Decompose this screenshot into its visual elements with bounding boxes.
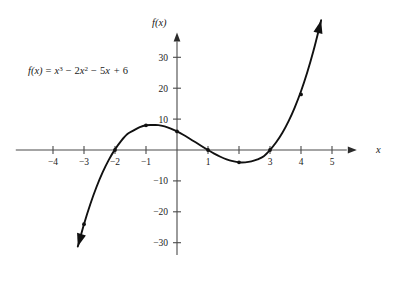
equation-equals: = <box>46 65 52 76</box>
equation-constant: 6 <box>123 65 128 76</box>
x-tick-label: −3 <box>79 157 89 167</box>
x-tick-label: −2 <box>110 157 120 167</box>
y-axis-arrow-icon <box>174 33 181 42</box>
function-equation-label: f(x)=x3−2x2−5x+6 <box>28 65 128 78</box>
y-axis-label: f(x) <box>152 17 167 29</box>
curve-point-marker <box>299 92 303 96</box>
y-tick-label: −10 <box>153 176 168 186</box>
curve-point-marker <box>206 148 210 152</box>
x-tick-label: 1 <box>206 157 211 167</box>
y-tick-label: 20 <box>159 84 169 94</box>
equation-minus-2: − <box>91 65 97 76</box>
curve-start-arrow-icon <box>77 233 86 247</box>
x-tick-label: 3 <box>268 157 273 167</box>
curve-end-arrow-icon <box>314 20 323 34</box>
x-axis-label: x <box>375 144 381 155</box>
x-tick-label: 5 <box>330 157 335 167</box>
function-curve <box>78 20 321 246</box>
equation-plus: + <box>114 65 120 76</box>
curve-point-marker <box>144 123 148 127</box>
equation-term3-base: x <box>104 65 110 76</box>
curve-point-marker <box>175 130 179 134</box>
equation-term1-exponent: 3 <box>59 65 63 73</box>
equation-minus-1: − <box>66 65 72 76</box>
x-tick-label: −4 <box>48 157 58 167</box>
y-tick-label: −30 <box>153 238 168 248</box>
curve-point-marker <box>268 148 272 152</box>
y-tick-label: −20 <box>153 207 168 217</box>
function-plot-svg: −4−3−2−11345 −30−20−10102030 x f(x) f(x)… <box>0 0 399 288</box>
curve-point-marker <box>82 222 86 226</box>
equation-fx: f(x) <box>28 65 43 77</box>
curve-point-marker <box>237 160 241 164</box>
x-axis-tick-labels: −4−3−2−11345 <box>48 157 335 167</box>
curve-point-marker <box>113 148 117 152</box>
x-tick-label: −1 <box>141 157 151 167</box>
y-tick-label: 30 <box>159 53 169 63</box>
x-tick-label: 4 <box>299 157 304 167</box>
graph-figure: −4−3−2−11345 −30−20−10102030 x f(x) f(x)… <box>0 0 399 288</box>
x-axis-arrow-icon <box>348 147 357 154</box>
equation-term2-exponent: 2 <box>85 65 89 73</box>
y-tick-label: 10 <box>159 115 169 125</box>
